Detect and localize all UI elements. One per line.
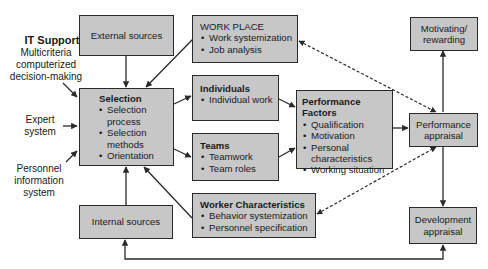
it-support-heading: IT Support	[22, 34, 82, 46]
box-motivating-rewarding: Motivating/ rewarding	[410, 17, 478, 51]
arrow-selection-to-individuals	[174, 96, 191, 104]
it-support-personnel-info-system: Personnel information system	[10, 163, 68, 199]
box-items: Behavior systemization Personnel specifi…	[200, 210, 315, 233]
list-item: Work systemization	[200, 32, 297, 43]
item-line: Motivation	[311, 130, 392, 141]
box-items: Individual work	[200, 94, 278, 105]
box-performance-appraisal: Performance appraisal	[409, 113, 478, 147]
item-line: methods	[107, 139, 173, 150]
arrow-individuals-to-perf-factors	[279, 99, 295, 107]
box-title-line: appraisal	[424, 130, 463, 141]
box-title: Individuals	[200, 83, 278, 94]
label-line: computerized	[6, 59, 86, 71]
box-selection: Selection Selection process Selection me…	[79, 88, 174, 166]
item-line: process	[107, 116, 173, 127]
box-teams: Teams Teamwork Team roles	[192, 133, 279, 181]
arrow-development-internal-loop	[125, 240, 443, 259]
box-items: Qualification Motivation Personal charac…	[302, 119, 392, 176]
item-line: Personal	[311, 142, 392, 153]
label-line: information	[10, 175, 68, 187]
list-item: Orientation	[98, 150, 173, 161]
label-line: system	[20, 126, 60, 138]
list-item: Behavior systemization	[200, 210, 315, 221]
arrow-teams-to-perf-factors	[279, 148, 295, 157]
it-support-expert-system: Expert system	[20, 114, 60, 138]
label-line: Expert	[20, 114, 60, 126]
item-line: Selection	[107, 104, 173, 115]
list-item: Working situation	[302, 164, 392, 175]
item-line: Orientation	[107, 150, 173, 161]
item-line: Qualification	[311, 119, 392, 130]
box-performance-factors: Performance Factors Qualification Motiva…	[296, 90, 393, 169]
box-title: Teams	[200, 140, 278, 151]
box-title: Worker Characteristics	[200, 199, 315, 210]
box-work-place: WORK PLACE Work systemization Job analys…	[192, 15, 298, 63]
box-title-line: Motivating/	[421, 23, 467, 34]
it-support-multicriteria: Multicriteria computerized decision-maki…	[6, 47, 86, 83]
box-internal-sources: Internal sources	[79, 205, 173, 239]
list-item: Motivation	[302, 130, 392, 141]
box-title-line: appraisal	[424, 226, 463, 237]
box-development-appraisal: Development appraisal	[409, 207, 477, 244]
box-title-line: rewarding	[423, 34, 465, 45]
hr-process-diagram: IT Support Multicriteria computerized de…	[0, 0, 488, 269]
arrow-selection-to-teams	[174, 149, 191, 157]
list-item: Selection process	[98, 104, 173, 127]
list-item: Job analysis	[200, 44, 297, 55]
list-item: Teamwork	[200, 151, 278, 162]
list-item: Personal characteristics	[302, 142, 392, 165]
box-worker-characteristics: Worker Characteristics Behavior systemiz…	[192, 193, 316, 238]
item-line: Selection	[107, 127, 173, 138]
label-line: decision-making	[6, 71, 86, 83]
arrow-personnel-to-selection	[66, 151, 77, 162]
box-title-line: Performance	[416, 119, 471, 130]
box-title: WORK PLACE	[200, 21, 297, 32]
item-line: characteristics	[311, 153, 392, 164]
box-individuals: Individuals Individual work	[192, 75, 279, 121]
label-line: Personnel	[10, 163, 68, 175]
arrow-multicriteria-to-selection	[63, 83, 77, 97]
label-line: Multicriteria	[6, 47, 86, 59]
list-item: Personnel specification	[200, 222, 315, 233]
box-external-sources: External sources	[79, 15, 174, 56]
box-items: Selection process Selection methods Orie…	[98, 104, 173, 161]
list-item: Individual work	[200, 94, 278, 105]
list-item: Selection methods	[98, 127, 173, 150]
list-item: Team roles	[200, 163, 278, 174]
box-title: External sources	[91, 30, 162, 41]
box-title: Performance Factors	[302, 96, 392, 119]
label-line: system	[10, 187, 68, 199]
item-line: Working situation	[311, 164, 392, 175]
box-title-line: Development	[415, 214, 472, 225]
list-item: Qualification	[302, 119, 392, 130]
box-title: Internal sources	[92, 216, 160, 227]
box-title: Selection	[98, 93, 173, 104]
box-items: Teamwork Team roles	[200, 151, 278, 174]
box-items: Work systemization Job analysis	[200, 32, 297, 55]
